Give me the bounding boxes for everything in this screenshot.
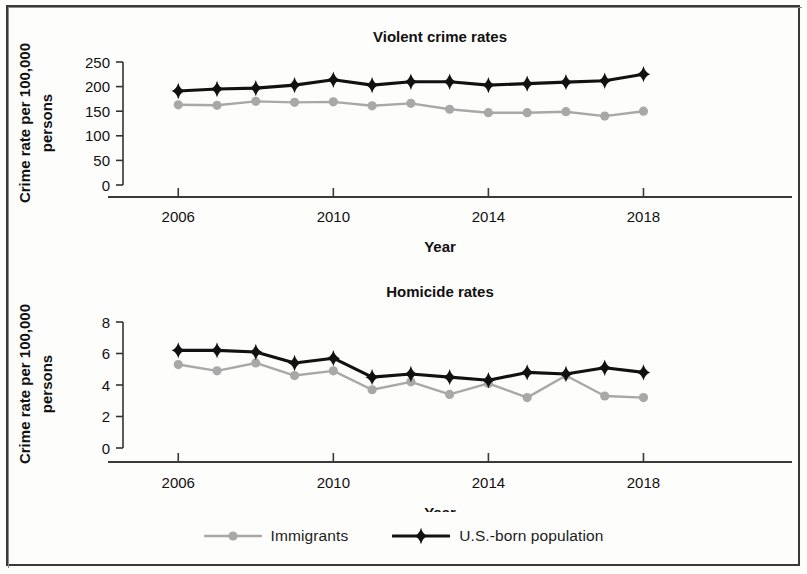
legend-marker-immigrants-icon — [204, 527, 262, 545]
data-point-u-s-born-population — [172, 342, 185, 358]
legend-marker — [415, 528, 428, 544]
data-point-immigrants — [212, 366, 221, 375]
y-axis-tick-label: 6 — [102, 345, 110, 362]
data-point-u-s-born-population — [598, 359, 611, 375]
data-point-u-s-born-population — [521, 364, 534, 380]
data-point-u-s-born-population — [327, 72, 340, 88]
data-point-u-s-born-population — [210, 81, 223, 97]
figure-legend: Immigrants U.S.-born population — [0, 516, 807, 556]
legend-label-immigrants: Immigrants — [271, 527, 349, 545]
data-point-immigrants — [523, 108, 532, 117]
data-point-immigrants — [445, 105, 454, 114]
y-axis-tick-label: 50 — [93, 152, 110, 169]
legend-entry-us-born-population: U.S.-born population — [392, 527, 603, 545]
x-axis-tick-label: 2014 — [472, 208, 505, 225]
y-axis-tick-label: 100 — [85, 127, 110, 144]
chart-panel-violent-crime-rates: Violent crime rates050100150200250200620… — [0, 0, 807, 270]
y-axis-tick-label: 200 — [85, 78, 110, 95]
data-point-immigrants — [251, 97, 260, 106]
x-axis-tick-label: 2018 — [627, 474, 660, 491]
data-point-immigrants — [368, 385, 377, 394]
x-axis-tick-label: 2018 — [627, 208, 660, 225]
chart-title: Violent crime rates — [373, 28, 507, 45]
data-point-u-s-born-population — [172, 83, 185, 99]
y-axis-title-line2: persons — [38, 355, 55, 413]
homicide-rates-chart: Homicide rates024682006201020142018YearC… — [0, 262, 807, 512]
legend-marker-us-born-population-icon — [392, 527, 450, 545]
data-point-u-s-born-population — [404, 73, 417, 89]
x-axis-title: Year — [424, 504, 456, 512]
data-point-immigrants — [368, 101, 377, 110]
data-point-immigrants — [212, 101, 221, 110]
data-point-u-s-born-population — [443, 73, 456, 89]
data-point-u-s-born-population — [559, 74, 572, 90]
data-point-u-s-born-population — [559, 366, 572, 382]
y-axis-title-line1: Crime rate per 100,000 — [16, 43, 33, 203]
y-axis-tick-label: 0 — [102, 440, 110, 457]
data-point-immigrants — [290, 371, 299, 380]
chart-panel-homicide-rates: Homicide rates024682006201020142018YearC… — [0, 262, 807, 512]
data-point-u-s-born-population — [366, 369, 379, 385]
data-point-immigrants — [484, 108, 493, 117]
data-point-immigrants — [445, 390, 454, 399]
data-point-immigrants — [174, 100, 183, 109]
data-point-immigrants — [329, 366, 338, 375]
data-point-u-s-born-population — [404, 366, 417, 382]
x-axis-tick-label: 2010 — [317, 208, 350, 225]
data-point-u-s-born-population — [598, 72, 611, 88]
y-axis-tick-label: 4 — [102, 377, 110, 394]
y-axis-tick-label: 250 — [85, 54, 110, 71]
y-axis-tick-label: 0 — [102, 177, 110, 194]
data-point-u-s-born-population — [288, 77, 301, 93]
data-point-u-s-born-population — [210, 342, 223, 358]
y-axis-tick-label: 2 — [102, 408, 110, 425]
data-point-immigrants — [329, 97, 338, 106]
data-point-immigrants — [600, 112, 609, 121]
data-point-immigrants — [639, 107, 648, 116]
y-axis-title-line1: Crime rate per 100,000 — [16, 304, 33, 464]
data-point-u-s-born-population — [288, 355, 301, 371]
figure-page: Violent crime rates050100150200250200620… — [0, 0, 807, 574]
x-axis-tick-label: 2006 — [162, 474, 195, 491]
y-axis-title-line2: persons — [38, 94, 55, 152]
data-point-u-s-born-population — [443, 369, 456, 385]
y-axis-tick-label: 150 — [85, 103, 110, 120]
legend-entry-immigrants: Immigrants — [204, 527, 349, 545]
data-point-u-s-born-population — [482, 77, 495, 93]
data-point-u-s-born-population — [327, 350, 340, 366]
data-point-u-s-born-population — [637, 66, 650, 82]
x-axis-tick-label: 2010 — [317, 474, 350, 491]
x-axis-tick-label: 2006 — [162, 208, 195, 225]
x-axis-title: Year — [424, 238, 456, 255]
data-point-u-s-born-population — [521, 75, 534, 91]
data-point-immigrants — [174, 360, 183, 369]
x-axis-tick-label: 2014 — [472, 474, 505, 491]
data-point-immigrants — [639, 393, 648, 402]
data-point-immigrants — [561, 107, 570, 116]
data-point-immigrants — [523, 393, 532, 402]
data-point-u-s-born-population — [366, 77, 379, 93]
y-axis-tick-label: 8 — [102, 314, 110, 331]
legend-label-us-born-population: U.S.-born population — [459, 527, 603, 545]
data-point-u-s-born-population — [637, 364, 650, 380]
data-point-immigrants — [600, 391, 609, 400]
data-point-u-s-born-population — [249, 344, 262, 360]
chart-title: Homicide rates — [386, 283, 494, 300]
legend-marker — [228, 531, 237, 540]
data-point-u-s-born-population — [249, 80, 262, 96]
violent-crime-rates-chart: Violent crime rates050100150200250200620… — [0, 0, 807, 270]
data-point-immigrants — [290, 98, 299, 107]
data-point-immigrants — [406, 99, 415, 108]
